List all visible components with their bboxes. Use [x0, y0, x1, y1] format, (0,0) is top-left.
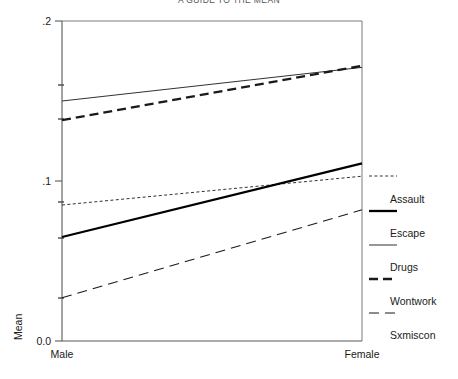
legend-label-wontwork: Wontwork [390, 295, 437, 307]
legend-label-drugs: Drugs [390, 261, 418, 273]
legend-label-escape: Escape [390, 227, 425, 239]
y-axis-title: Mean [12, 314, 24, 340]
series-line-escape [62, 163, 362, 237]
legend-label-sxmiscon: Sxmiscon [390, 329, 436, 341]
y-tick-label-bottom: 0.0 [36, 335, 51, 347]
series-line-sxmiscon [62, 210, 362, 298]
x-tick-label-female: Female [344, 348, 379, 360]
plot-area: .2 .1 0.0 Mean Male Female Assault Escap… [0, 0, 458, 379]
chart-container: A GUIDE TO THE MEAN .2 .1 0.0 Mean Male … [0, 0, 458, 379]
series-line-drugs [62, 67, 362, 101]
series-line-wontwork [62, 66, 362, 120]
legend-label-assault: Assault [390, 193, 425, 205]
x-tick-label-male: Male [51, 348, 74, 360]
y-tick-label-top: .2 [42, 15, 51, 27]
y-tick-label-mid: .1 [42, 175, 51, 187]
